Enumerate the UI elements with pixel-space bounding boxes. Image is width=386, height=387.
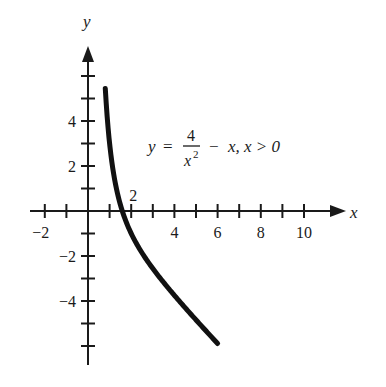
y-tick-label: −2 [59,248,76,265]
equation-denominator: x [183,152,191,169]
function-curve [105,88,217,343]
y-axis-arrow-icon [82,46,94,62]
y-tick-label: −4 [59,293,76,310]
x-axis-arrow-icon [330,205,346,217]
x-tick-label: 8 [257,224,265,241]
y-tick-label: 4 [68,113,76,130]
x-axis [30,204,346,218]
function-graph: x y −2246810 42−2−4 y = 4 x 2 − x, x > 0 [0,0,386,387]
equation-annotation: y = 4 x 2 − x, x > 0 [146,127,281,169]
y-axis [81,46,95,365]
x-tick-label: −2 [32,224,49,241]
x-tick-label: 6 [214,224,222,241]
equation-numerator: 4 [187,127,195,144]
equation-lhs: y [146,137,156,156]
x-tick-labels: −2246810 [32,187,312,241]
y-axis-label: y [81,12,91,31]
equation-equals: = [163,137,173,156]
x-tick-label: 10 [296,224,312,241]
x-tick-label: 2 [129,187,137,204]
x-axis-label: x [349,203,358,222]
equation-rest: − x, x > 0 [208,137,281,156]
equation-exponent: 2 [193,148,199,160]
y-tick-label: 2 [68,158,76,175]
x-tick-label: 4 [170,224,178,241]
